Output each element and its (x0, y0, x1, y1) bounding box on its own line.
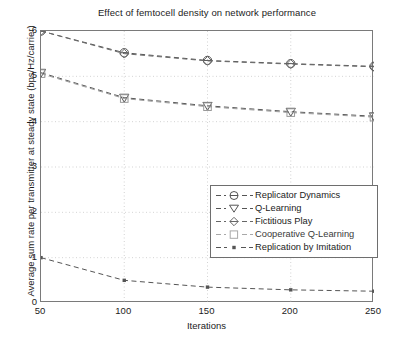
y-tick-4: 4 (7, 116, 37, 126)
x-tick-50: 50 (20, 305, 60, 316)
gridlines (41, 31, 374, 303)
legend-marker-dot-icon (215, 241, 255, 254)
x-tick-100: 100 (103, 305, 143, 316)
legend-marker-diamond-icon (215, 215, 255, 228)
y-tick-3: 3 (7, 161, 37, 171)
legend-label-fictitious-play: Fictitious Play (255, 215, 312, 228)
legend-label-replicator-dynamics: Replicator Dynamics (255, 189, 340, 202)
x-axis-label: Iterations (40, 320, 373, 332)
series-replication-by-imitation (41, 256, 374, 293)
x-tick-250: 250 (353, 305, 393, 316)
y-tick-1: 1 (7, 252, 37, 262)
x-tick-200: 200 (270, 305, 310, 316)
legend-item-q-learning[interactable]: Q-Learning (215, 202, 373, 215)
y-axis-tick-labels: 6 5 4 3 2 1 0 (2, 30, 37, 302)
x-tick-150: 150 (187, 305, 227, 316)
plot-canvas (41, 31, 374, 303)
legend-marker-square-icon (215, 228, 255, 241)
legend-marker-circle-icon (215, 189, 255, 202)
legend-item-replicator-dynamics[interactable]: Replicator Dynamics (215, 189, 373, 202)
legend[interactable]: Replicator Dynamics Q-Learning Fictitiou… (210, 185, 378, 258)
legend-label-replication-by-imitation: Replication by Imitation (255, 241, 351, 254)
chart-figure: Effect of femtocell density on network p… (0, 0, 393, 339)
x-axis-tick-labels: 50 100 150 200 250 (40, 305, 373, 319)
legend-label-cooperative-q-learning: Cooperative Q-Learning (255, 228, 354, 241)
plot-area (40, 30, 373, 302)
legend-item-replication-by-imitation[interactable]: Replication by Imitation (215, 241, 373, 254)
legend-marker-triangle-down-icon (215, 202, 255, 215)
chart-title: Effect of femtocell density on network p… (40, 7, 374, 19)
y-tick-6: 6 (7, 25, 37, 35)
legend-item-cooperative-q-learning[interactable]: Cooperative Q-Learning (215, 228, 373, 241)
series-fictitious-play (41, 31, 374, 71)
y-tick-2: 2 (7, 206, 37, 216)
legend-item-fictitious-play[interactable]: Fictitious Play (215, 215, 373, 228)
legend-label-q-learning: Q-Learning (255, 202, 302, 215)
y-tick-5: 5 (7, 70, 37, 80)
